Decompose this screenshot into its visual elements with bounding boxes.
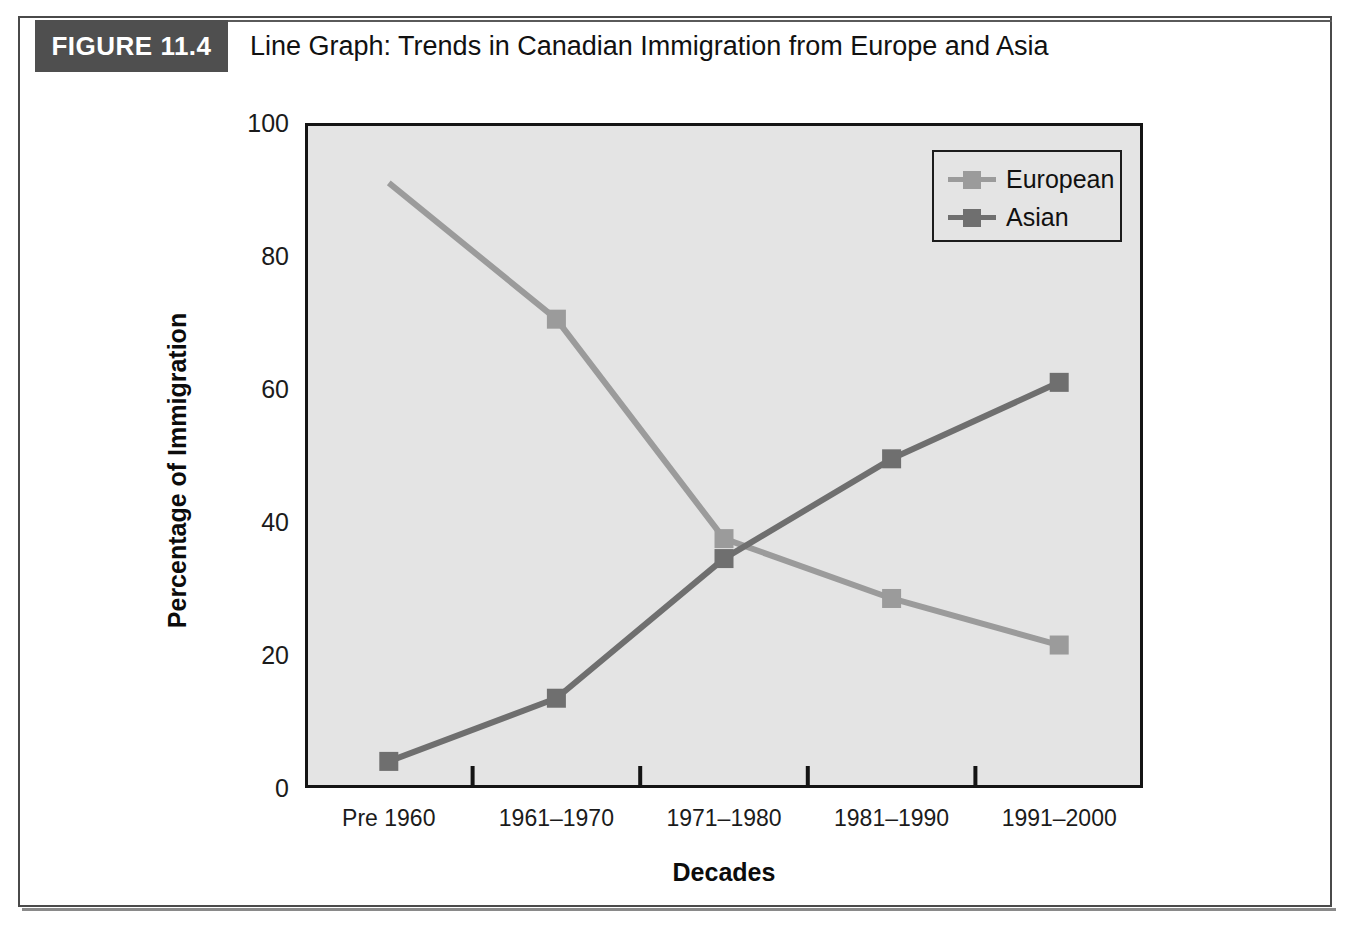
figure-title: Line Graph: Trends in Canadian Immigrati… (250, 20, 1048, 72)
figure-number-badge: FIGURE 11.4 (35, 20, 228, 72)
figure-frame (18, 16, 1332, 907)
figure-header: FIGURE 11.4 Line Graph: Trends in Canadi… (18, 16, 1332, 74)
figure-drop-shadow (22, 908, 1336, 911)
